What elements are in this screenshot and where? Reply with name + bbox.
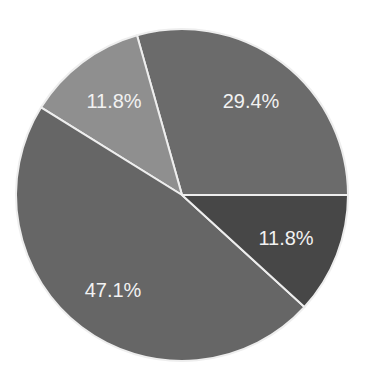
slice-label-2: 47.1% <box>85 279 142 301</box>
slice-label-1: 11.8% <box>86 90 141 112</box>
slice-label-3: 11.8% <box>258 227 313 249</box>
pie-chart: 29.4% 11.8% 47.1% 11.8% <box>0 0 367 390</box>
slice-label-0: 29.4% <box>223 90 280 112</box>
pie-slices <box>16 29 348 361</box>
